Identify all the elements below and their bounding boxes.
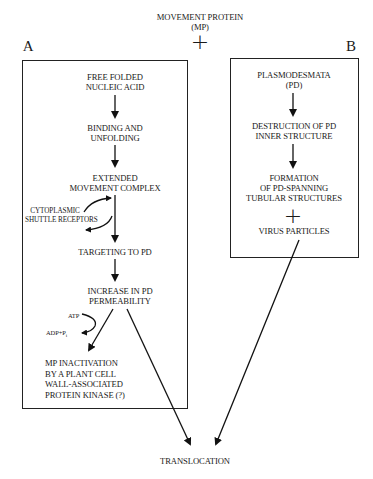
arrow-layer: [0, 0, 373, 479]
shuttle-arrow-in: [84, 198, 111, 212]
arrow-a-to-translocation: [127, 309, 190, 444]
atp-arrow: [82, 314, 95, 333]
arrow-b-to-translocation: [216, 240, 299, 444]
shuttle-arrow-out: [86, 216, 112, 230]
